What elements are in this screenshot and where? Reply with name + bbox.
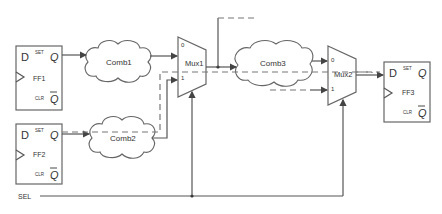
clr-label: CLR — [35, 96, 45, 101]
comb3-block: Comb3 — [235, 41, 313, 87]
q-output-label: Q — [50, 51, 59, 63]
qbar-output-label: Q — [50, 93, 59, 105]
flipflop-ff1: D SET Q FF1 CLR Q — [16, 46, 62, 110]
d-input-label: D — [21, 51, 29, 63]
qbar-output-label: Q — [50, 169, 59, 181]
set-label: SET — [35, 128, 44, 133]
clr-label: CLR — [35, 172, 45, 177]
ff1-label: FF1 — [33, 75, 46, 82]
clr-label: CLR — [403, 110, 413, 115]
mux1: 0 1 Mux1 — [178, 37, 206, 97]
comb1-label: Comb1 — [106, 58, 132, 67]
set-label: SET — [403, 66, 412, 71]
comb2-label: Comb2 — [110, 134, 136, 143]
q-output-label: Q — [418, 67, 427, 79]
d-input-label: D — [21, 129, 29, 141]
ff2-label: FF2 — [33, 151, 46, 158]
comb1-block: Comb1 — [85, 41, 151, 83]
q-output-label: Q — [50, 129, 59, 141]
mux2-label: Mux2 — [334, 70, 352, 79]
flipflop-ff2: D SET Q FF2 CLR Q — [16, 124, 62, 184]
mux2: 0 1 Mux2 — [328, 46, 356, 105]
mux1-label: Mux1 — [185, 59, 203, 68]
wires: SEL — [18, 18, 383, 200]
qbar-output-label: Q — [418, 107, 427, 119]
set-label: SET — [35, 50, 44, 55]
comb2-block: Comb2 — [89, 117, 155, 159]
d-input-label: D — [389, 67, 397, 79]
flipflop-ff3: D SET Q FF3 CLR Q — [384, 62, 430, 122]
comb3-label: Comb3 — [260, 59, 286, 68]
sel-signal-label: SEL — [18, 193, 31, 200]
ff3-label: FF3 — [402, 89, 415, 96]
circuit-diagram: D SET Q FF1 CLR Q D SET Q FF2 CLR Q D SE… — [0, 0, 442, 214]
